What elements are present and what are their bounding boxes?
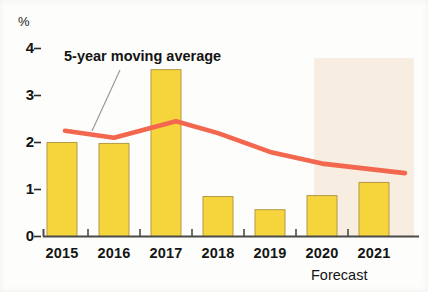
bar-2016: [99, 143, 129, 236]
bar-2017: [151, 70, 181, 237]
chart-plot-area: [0, 0, 428, 292]
bar-2021: [359, 182, 389, 236]
annotation-leader-line: [92, 70, 120, 131]
bar-2020: [307, 196, 337, 237]
bar-2015: [47, 143, 77, 237]
bar-2019: [255, 210, 285, 237]
bar-2018: [203, 197, 233, 237]
chart-container: % 4 3 2 1 0 2015 2016 2017 2018 2019 202…: [0, 0, 428, 292]
y-tick-marks: [34, 49, 41, 237]
